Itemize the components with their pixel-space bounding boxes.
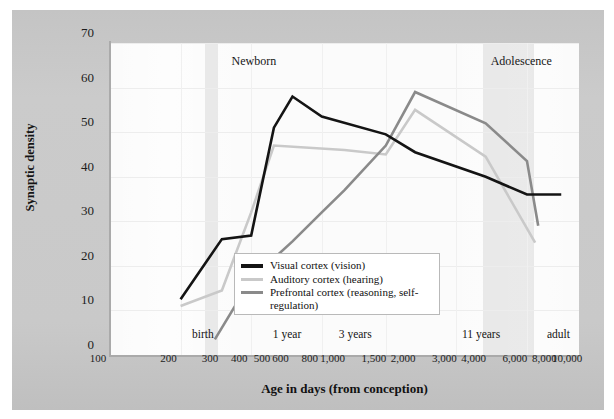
- milestone-label: 3 years: [339, 328, 372, 340]
- y-tick-label: 20: [58, 249, 94, 262]
- x-tick-label: 200: [160, 352, 177, 364]
- y-tick-label: 70: [58, 26, 94, 39]
- milestone-label: birth: [192, 328, 214, 340]
- legend-swatch-icon: [241, 278, 263, 281]
- x-tick-label: 800: [302, 352, 319, 364]
- y-tick-label: 0: [58, 338, 94, 351]
- milestone-label: adult: [547, 328, 570, 340]
- x-tick-label: 3,000: [432, 352, 457, 364]
- x-tick-label: 4,000: [461, 352, 486, 364]
- x-tick-label: 2,000: [391, 352, 416, 364]
- y-tick-label: 50: [58, 115, 94, 128]
- legend-item: Prefrontal cortex (reasoning, self-regul…: [241, 286, 433, 311]
- y-tick-label: 40: [58, 160, 94, 173]
- legend-swatch-icon: [241, 291, 263, 294]
- milestone-label: 11 years: [462, 328, 500, 340]
- legend-label: Auditory cortex (hearing): [270, 273, 383, 286]
- y-tick-label: 60: [58, 71, 94, 84]
- figure-panel: Synaptic density NewbornAdolescence Age …: [12, 10, 604, 410]
- x-axis-title: Age in days (from conception): [110, 381, 579, 397]
- x-tick-label: 1,500: [361, 352, 386, 364]
- y-tick-label: 30: [58, 204, 94, 217]
- x-tick-label: 1,000: [320, 352, 345, 364]
- x-tick-label: 100: [90, 352, 107, 364]
- x-tick-label: 300: [202, 352, 219, 364]
- milestone-label: 1 year: [273, 328, 301, 340]
- legend-label: Visual cortex (vision): [270, 259, 365, 272]
- x-tick-label: 400: [231, 352, 248, 364]
- x-tick-label: 10,000: [552, 352, 582, 364]
- x-tick-label: 500: [254, 352, 271, 364]
- y-axis-line: [109, 41, 111, 357]
- legend-item: Auditory cortex (hearing): [241, 273, 433, 286]
- legend-swatch-icon: [241, 264, 263, 268]
- legend-item: Visual cortex (vision): [241, 259, 433, 272]
- y-tick-label: 10: [58, 293, 94, 306]
- x-tick-label: 600: [272, 352, 289, 364]
- x-tick-label: 6,000: [503, 352, 528, 364]
- y-axis-title: Synaptic density: [23, 88, 38, 248]
- chart-figure: Synaptic density NewbornAdolescence Age …: [0, 0, 614, 419]
- chart-legend: Visual cortex (vision)Auditory cortex (h…: [234, 253, 440, 315]
- legend-label: Prefrontal cortex (reasoning, self-regul…: [270, 286, 433, 311]
